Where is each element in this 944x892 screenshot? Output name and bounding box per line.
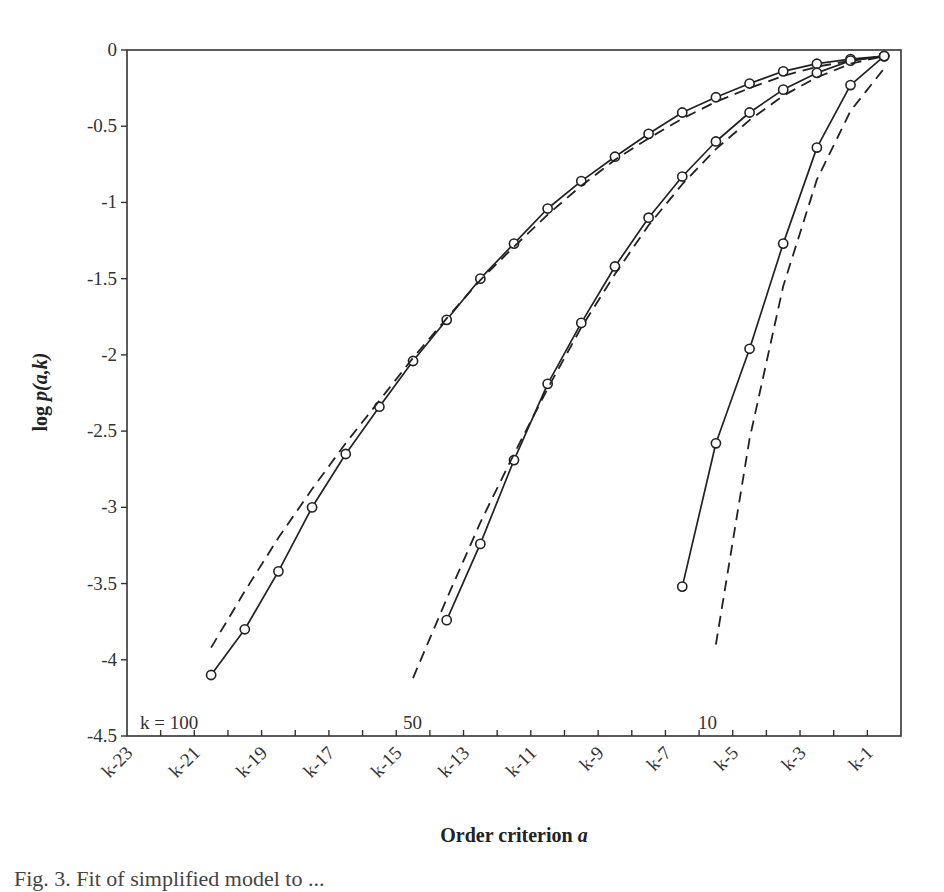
series-layer xyxy=(207,51,889,679)
x-tick-label: k-11 xyxy=(502,742,541,781)
data-point-marker xyxy=(812,143,821,152)
y-tick-label: -3 xyxy=(101,496,117,517)
y-tick-label: -2 xyxy=(101,344,117,365)
data-line xyxy=(682,56,884,587)
data-point-marker xyxy=(678,108,687,117)
series-k-10-observed- xyxy=(678,51,889,591)
x-tick-label: k-19 xyxy=(232,742,271,781)
y-tick-label: -4.5 xyxy=(87,725,117,746)
x-tick-label: k-1 xyxy=(844,742,877,775)
x-tick-label: k-23 xyxy=(97,742,136,781)
x-tick-label: k-15 xyxy=(366,742,405,781)
x-tick-label: k-13 xyxy=(434,742,473,781)
data-line xyxy=(447,56,885,620)
x-tick-label: k-9 xyxy=(575,742,608,775)
x-tick-label: k-21 xyxy=(164,742,203,781)
data-point-marker xyxy=(644,213,653,222)
data-line xyxy=(211,56,884,675)
data-point-marker xyxy=(779,85,788,94)
annotations: k = 1005010 xyxy=(140,712,717,733)
data-point-marker xyxy=(476,539,485,548)
model-curve xyxy=(716,68,884,644)
data-point-marker xyxy=(846,80,855,89)
x-tick-label: k-5 xyxy=(710,742,743,775)
y-tick-label: -1 xyxy=(101,191,117,212)
y-tick-label: -2.5 xyxy=(87,420,117,441)
data-point-marker xyxy=(577,318,586,327)
series-k-100-observed- xyxy=(207,51,889,679)
y-tick-label: -0.5 xyxy=(87,115,117,136)
series-annotation: 10 xyxy=(698,712,717,733)
data-point-marker xyxy=(644,129,653,138)
series-k-100-simplified-model- xyxy=(211,56,884,648)
y-axis: 0-0.5-1-1.5-2-2.5-3-3.5-4-4.5 xyxy=(87,39,127,746)
data-point-marker xyxy=(207,670,216,679)
x-axis-title: Order criterion a xyxy=(440,824,587,846)
y-axis-title: log p(a,k) xyxy=(29,353,52,432)
data-point-marker xyxy=(711,137,720,146)
data-point-marker xyxy=(678,582,687,591)
series-k-10-simplified-model- xyxy=(716,68,884,644)
data-point-marker xyxy=(745,108,754,117)
data-point-marker xyxy=(307,503,316,512)
y-tick-label: -4 xyxy=(101,649,117,670)
data-point-marker xyxy=(880,51,889,60)
data-point-marker xyxy=(678,172,687,181)
x-tick-label: k-7 xyxy=(642,742,675,775)
model-curve xyxy=(211,56,884,648)
y-tick-label: -3.5 xyxy=(87,573,117,594)
x-axis: k-23k-21k-19k-17k-15k-13k-11k-9k-7k-5k-3… xyxy=(97,730,877,781)
y-tick-label: -1.5 xyxy=(87,268,117,289)
data-point-marker xyxy=(442,616,451,625)
data-point-marker xyxy=(745,344,754,353)
data-point-marker xyxy=(543,204,552,213)
x-tick-label: k-17 xyxy=(299,742,338,781)
data-point-marker xyxy=(476,274,485,283)
data-point-marker xyxy=(779,239,788,248)
series-annotation: 50 xyxy=(403,712,422,733)
series-annotation: k = 100 xyxy=(140,712,198,733)
data-point-marker xyxy=(711,439,720,448)
data-point-marker xyxy=(812,59,821,68)
data-point-marker xyxy=(274,567,283,576)
data-point-marker xyxy=(240,625,249,634)
x-tick-label: k-3 xyxy=(777,742,810,775)
data-point-marker xyxy=(341,449,350,458)
y-tick-label: 0 xyxy=(108,39,118,60)
figure-caption: Fig. 3. Fit of simplified model to ... xyxy=(14,866,324,892)
